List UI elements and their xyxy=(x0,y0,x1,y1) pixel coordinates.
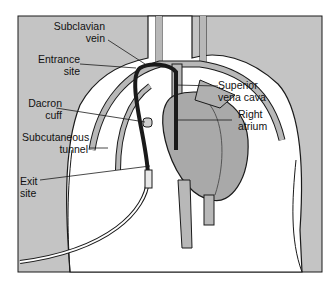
catheter-connector xyxy=(145,170,152,188)
label-right-atrium: Right atrium xyxy=(238,108,267,132)
label-line: vein xyxy=(52,32,105,44)
label-subcutaneous-tunnel: Subcutaneous tunnel xyxy=(22,131,88,155)
label-entrance-site: Entrance site xyxy=(30,53,80,77)
label-line: cuff xyxy=(22,109,62,121)
label-superior-vena-cava: Superior vena cava xyxy=(218,79,266,103)
label-dacron-cuff: Dacron cuff xyxy=(22,97,62,121)
label-line: site xyxy=(30,65,80,77)
inferior-vena-cava xyxy=(204,195,214,225)
label-exit-site: Exit site xyxy=(20,175,38,199)
label-line: Right xyxy=(238,108,267,120)
label-line: Entrance xyxy=(30,53,80,65)
label-line: Exit xyxy=(20,175,38,187)
label-line: site xyxy=(20,187,38,199)
label-line: Dacron xyxy=(22,97,62,109)
label-line: Superior xyxy=(218,79,266,91)
label-line: atrium xyxy=(238,120,267,132)
label-line: vena cava xyxy=(218,91,266,103)
label-line: Subcutaneous xyxy=(22,131,88,143)
dacron-cuff xyxy=(143,118,152,127)
label-line: Subclavian xyxy=(52,20,105,32)
label-line: tunnel xyxy=(22,143,88,155)
label-subclavian-vein: Subclavian vein xyxy=(52,20,105,44)
